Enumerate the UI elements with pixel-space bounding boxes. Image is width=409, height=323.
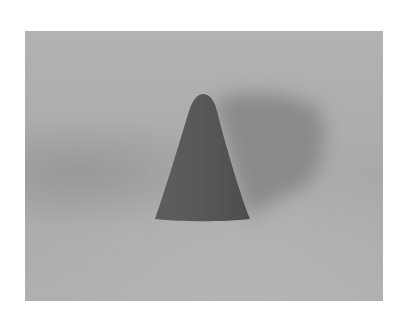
photograph bbox=[25, 31, 383, 301]
photo-scene bbox=[25, 31, 383, 301]
